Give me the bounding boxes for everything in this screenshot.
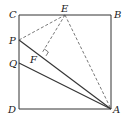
geometry-figure: C B E P Q F D A bbox=[0, 0, 128, 118]
label-a: A bbox=[112, 104, 120, 115]
label-e: E bbox=[60, 3, 69, 14]
segment-aq bbox=[19, 63, 111, 109]
label-b: B bbox=[113, 9, 121, 20]
label-p: P bbox=[8, 35, 16, 46]
label-d: D bbox=[7, 104, 16, 115]
segment-ea bbox=[65, 15, 111, 109]
label-f: F bbox=[29, 54, 38, 65]
label-c: C bbox=[9, 9, 17, 20]
segment-ef bbox=[42, 15, 65, 53]
segment-pe bbox=[19, 15, 65, 40]
segment-ap bbox=[19, 40, 111, 109]
label-q: Q bbox=[9, 58, 17, 69]
right-angle-mark bbox=[44, 49, 48, 56]
